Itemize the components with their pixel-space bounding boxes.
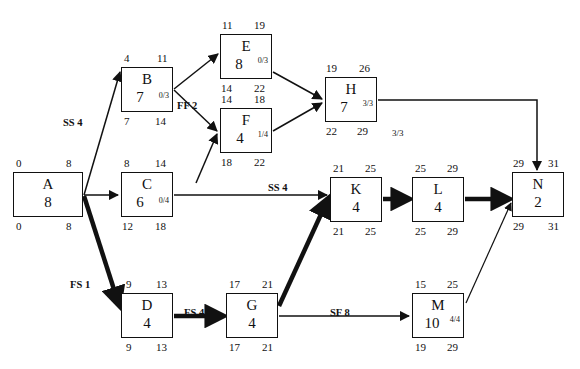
node-d-label: D — [122, 297, 172, 313]
node-h-late-finish: 29 — [357, 125, 368, 137]
node-d-body: D 4 — [122, 294, 172, 337]
edge-label-b-f: FF 2 — [177, 100, 197, 112]
node-d-early-finish: 13 — [156, 278, 167, 290]
edge-label-d-g: FS 4 — [184, 307, 204, 319]
node-f-early-start: 14 — [221, 93, 232, 105]
node-d-duration: 4 — [122, 315, 172, 331]
node-n-label: N — [513, 176, 563, 192]
node-a-duration: 8 — [14, 194, 82, 210]
node-b-late-start: 7 — [124, 115, 130, 127]
node-h-label: H — [326, 81, 376, 97]
node-c-early-start: 8 — [124, 157, 130, 169]
node-d-late-finish: 13 — [156, 341, 167, 353]
edge-label-a-d: FS 1 — [70, 279, 90, 291]
edge-m-n — [466, 203, 511, 303]
node-a-early-finish: 8 — [66, 157, 72, 169]
node-a-early-start: 0 — [16, 157, 22, 169]
node-n-early-finish: 31 — [548, 157, 559, 169]
node-g[interactable]: G 4 — [226, 293, 278, 338]
node-f-early-finish: 18 — [254, 93, 265, 105]
node-m[interactable]: M 10 4/4 — [412, 293, 464, 338]
node-g-late-finish: 21 — [262, 341, 273, 353]
node-l-early-finish: 29 — [447, 162, 458, 174]
node-a-label: A — [14, 176, 82, 192]
node-b-early-finish: 11 — [157, 52, 168, 64]
edge-label-g-m: SF 8 — [330, 307, 350, 319]
node-g-late-start: 17 — [229, 341, 240, 353]
node-e-early-start: 11 — [222, 19, 233, 31]
edge-g-k — [279, 199, 328, 306]
node-b-float: 0/3 — [159, 91, 169, 100]
node-l-label: L — [413, 181, 463, 197]
node-g-label: G — [227, 297, 277, 313]
node-f-late-finish: 22 — [254, 156, 265, 168]
network-diagram-canvas: A 8 0 8 0 8 B 7 0/3 4 11 7 14 C 6 0/4 8 … — [0, 0, 580, 369]
node-h-body: H 7 3/3 — [326, 78, 376, 121]
node-k-label: K — [331, 181, 381, 197]
node-c-float: 0/4 — [159, 196, 169, 205]
node-k-early-start: 21 — [333, 162, 344, 174]
node-k-duration: 4 — [331, 199, 381, 215]
node-c[interactable]: C 6 0/4 — [121, 172, 173, 217]
node-m-early-finish: 25 — [447, 278, 458, 290]
node-h[interactable]: H 7 3/3 — [325, 77, 377, 122]
node-b-body: B 7 0/3 — [122, 68, 172, 111]
node-e-body: E 8 0/3 — [221, 35, 271, 78]
edge-layer — [0, 0, 580, 369]
node-m-label: M — [413, 297, 463, 313]
node-k-body: K 4 — [331, 178, 381, 221]
node-b-label: B — [122, 71, 172, 87]
node-e[interactable]: E 8 0/3 — [220, 34, 272, 79]
edge-label-a-b: SS 4 — [63, 117, 83, 129]
node-a[interactable]: A 8 — [13, 172, 83, 217]
node-n-body: N 2 — [513, 173, 563, 216]
node-b[interactable]: B 7 0/3 — [121, 67, 173, 112]
edge-label-h-n-float: 3/3 — [392, 127, 404, 139]
edge-e-h — [273, 72, 322, 99]
node-h-early-start: 19 — [326, 62, 337, 74]
edge-label-c-k: SS 4 — [268, 182, 288, 194]
node-c-late-finish: 18 — [155, 220, 166, 232]
node-h-early-finish: 26 — [359, 62, 370, 74]
node-n[interactable]: N 2 — [512, 172, 564, 217]
node-a-late-finish: 8 — [66, 220, 72, 232]
node-l[interactable]: L 4 — [412, 177, 464, 222]
node-m-early-start: 15 — [415, 278, 426, 290]
node-m-body: M 10 4/4 — [413, 294, 463, 337]
node-f-label: F — [221, 112, 271, 128]
node-h-late-start: 22 — [326, 125, 337, 137]
node-l-early-start: 25 — [415, 162, 426, 174]
node-d[interactable]: D 4 — [121, 293, 173, 338]
node-l-duration: 4 — [413, 199, 463, 215]
node-g-body: G 4 — [227, 294, 277, 337]
node-g-early-finish: 21 — [262, 278, 273, 290]
node-f[interactable]: F 4 1/4 — [220, 108, 272, 153]
node-n-late-start: 29 — [513, 220, 524, 232]
node-g-duration: 4 — [227, 315, 277, 331]
node-d-late-start: 9 — [126, 341, 132, 353]
node-l-late-finish: 29 — [447, 225, 458, 237]
node-c-early-finish: 14 — [155, 157, 166, 169]
node-k[interactable]: K 4 — [330, 177, 382, 222]
node-b-early-start: 4 — [124, 52, 130, 64]
node-n-late-finish: 31 — [548, 220, 559, 232]
node-m-float: 4/4 — [450, 315, 460, 324]
node-c-late-start: 12 — [122, 220, 133, 232]
node-f-float: 1/4 — [258, 130, 268, 139]
node-g-early-start: 17 — [229, 278, 240, 290]
node-k-early-finish: 25 — [365, 162, 376, 174]
node-l-late-start: 25 — [415, 225, 426, 237]
node-n-early-start: 29 — [513, 157, 524, 169]
node-k-late-finish: 25 — [365, 225, 376, 237]
node-l-body: L 4 — [413, 178, 463, 221]
node-f-body: F 4 1/4 — [221, 109, 271, 152]
node-a-body: A 8 — [14, 173, 82, 216]
node-e-float: 0/3 — [258, 56, 268, 65]
node-c-body: C 6 0/4 — [122, 173, 172, 216]
node-m-late-finish: 29 — [447, 341, 458, 353]
node-k-late-start: 21 — [333, 225, 344, 237]
node-d-early-start: 9 — [126, 278, 132, 290]
node-h-float: 3/3 — [363, 99, 373, 108]
node-b-late-finish: 14 — [155, 115, 166, 127]
node-c-label: C — [122, 176, 172, 192]
